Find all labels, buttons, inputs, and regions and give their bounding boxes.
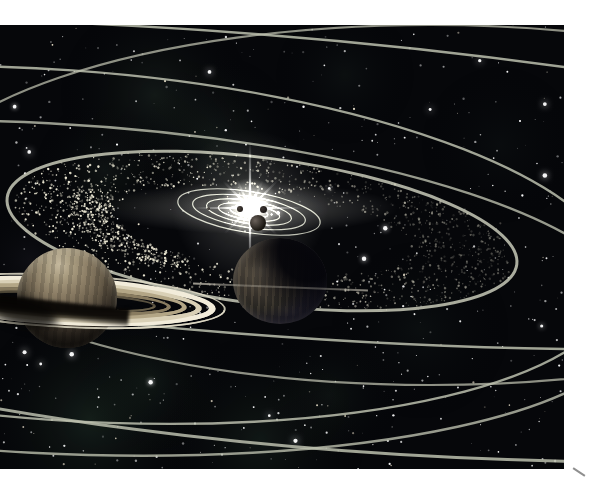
photo-frame bbox=[0, 0, 594, 489]
inner-planet-1 bbox=[237, 206, 243, 212]
gas-giant-planet bbox=[233, 238, 327, 324]
corner-mark bbox=[573, 467, 586, 476]
space-illustration bbox=[0, 25, 564, 469]
gas-giant-shadow bbox=[233, 238, 327, 324]
inner-planet-small-icon bbox=[207, 207, 210, 210]
inner-planet-2 bbox=[260, 206, 267, 213]
inner-planet-moon bbox=[250, 215, 266, 231]
